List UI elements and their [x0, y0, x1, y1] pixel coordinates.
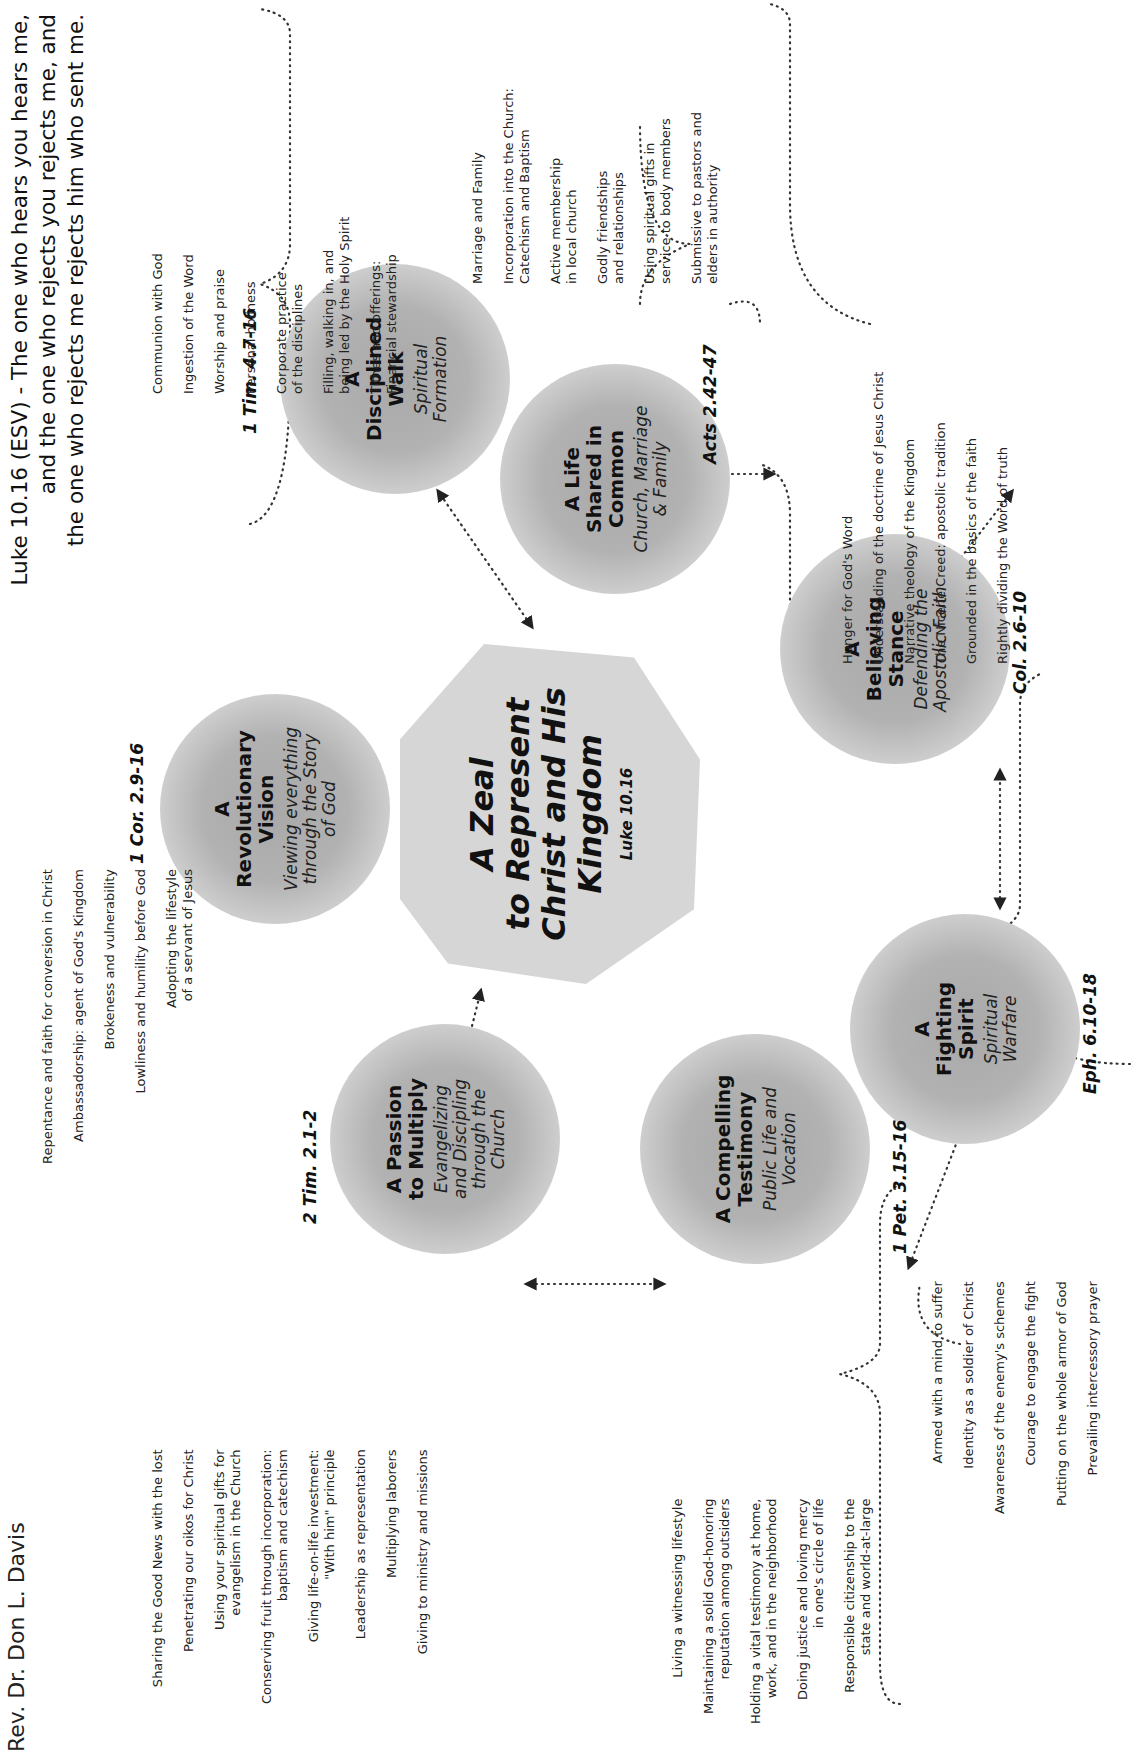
list-item: Repentance and faith for conversion in C… — [40, 869, 56, 1164]
node-reference: 1 Pet. 3.15-16 — [890, 1120, 910, 1254]
node-title: A Compelling Testimony — [712, 1075, 756, 1224]
list-item: Brokeness and vulnerability — [102, 869, 118, 1164]
list-item: Marriage and Family — [470, 88, 486, 284]
list-item: Godly friendships and relationships — [595, 88, 627, 284]
node-passion-to-multiply: A Passion to Multiply Evangelizing and D… — [330, 1024, 560, 1254]
list-item: Responsible citizenship to the state and… — [842, 1499, 874, 1724]
list-item: The Nicene Creed: apostolic tradition — [933, 372, 949, 664]
node-subtitle: Viewing everything through the Story of … — [282, 727, 339, 891]
list-item: Personal holiness — [243, 217, 259, 394]
hub-reference: Luke 10.16 — [618, 768, 636, 861]
list-item: Multiplying laborers — [384, 1449, 400, 1704]
list-item: Grounded in the basics of the faith — [964, 372, 980, 664]
node-subtitle: Spiritual Formation — [412, 336, 450, 423]
list-item: Penetrating our oikos for Christ — [181, 1449, 197, 1704]
list-item: Hunger for God's Word — [840, 372, 856, 664]
item-list-disciplined-walk: Communion with God Ingestion of the Word… — [150, 217, 415, 394]
node-title: A Fighting Spirit — [911, 982, 977, 1076]
item-list-revolutionary-vision: Repentance and faith for conversion in C… — [40, 869, 211, 1164]
hub-title: A Zeal to Represent Christ and His Kingd… — [464, 687, 608, 941]
list-item: Tithes and offerings: Financial stewards… — [368, 217, 400, 394]
list-item: Communion with God — [150, 217, 166, 394]
list-item: Narrative theology of the Kingdom — [902, 372, 918, 664]
list-item: Holding a vital testimony at home, work,… — [748, 1499, 780, 1724]
list-item: Using your spiritual gifts for evangelis… — [212, 1449, 244, 1704]
item-list-life-shared: Marriage and Family Incorporation into t… — [470, 88, 736, 284]
node-reference: Acts 2.42-47 — [700, 344, 720, 464]
list-item: Ingestion of the Word — [181, 217, 197, 394]
node-reference: 1 Cor. 2.9-16 — [127, 743, 147, 864]
list-item: Awareness of the enemy's schemes — [992, 1281, 1008, 1514]
node-reference: 2 Tim. 2.1-2 — [300, 1110, 320, 1224]
list-item: Maintaining a solid God-honoring reputat… — [701, 1499, 733, 1724]
node-title: A Revolutionary Vision — [211, 730, 277, 888]
list-item: Lowliness and humility before God — [133, 869, 149, 1164]
list-item: Armed with a mind to suffer — [930, 1281, 946, 1514]
item-list-fighting-spirit: Armed with a mind to suffer Identity as … — [930, 1281, 1116, 1514]
list-item: Ambassadorship: agent of God's Kingdom — [71, 869, 87, 1164]
list-item: Prevailing intercessory prayer — [1085, 1281, 1101, 1514]
item-list-believing-stance: Hunger for God's Word Understanding of t… — [840, 372, 1026, 664]
list-item: Courage to engage the fight — [1023, 1281, 1039, 1514]
list-item: Living a witnessing lifestyle — [670, 1499, 686, 1724]
list-item: Using spiritual gifts in service to body… — [642, 88, 674, 284]
list-item: Leadership as representation — [353, 1449, 369, 1704]
diagram-canvas: Rev. Dr. Don L. Davis Luke 10.16 (ESV) -… — [0, 0, 1142, 1764]
list-item: Understanding of the doctrine of Jesus C… — [871, 372, 887, 664]
node-subtitle: Church, Marriage & Family — [632, 406, 670, 553]
list-item: Identity as a soldier of Christ — [961, 1281, 977, 1514]
list-item: Conserving fruit through incorporation: … — [259, 1449, 291, 1704]
list-item: Giving to ministry and missions — [415, 1449, 431, 1704]
item-list-compelling-testimony: Living a witnessing lifestyle Maintainin… — [670, 1499, 889, 1724]
item-list-passion-to-multiply: Sharing the Good News with the lost Pene… — [150, 1449, 446, 1704]
list-item: Putting on the whole armor of God — [1054, 1281, 1070, 1514]
list-item: Incorporation into the Church: Catechism… — [501, 88, 533, 284]
node-subtitle: Spiritual Warfare — [982, 994, 1020, 1065]
node-subtitle: Evangelizing and Discipling through the … — [432, 1079, 508, 1199]
list-item: Corporate practice of the disciplines — [274, 217, 306, 394]
list-item: Giving life-on-life investment: "With hi… — [306, 1449, 338, 1704]
node-title: A Passion to Multiply — [383, 1078, 427, 1200]
list-item: Doing justice and loving mercy in one's … — [795, 1499, 827, 1724]
list-item: Filling, walking in, and being led by th… — [321, 217, 353, 394]
node-compelling-testimony: A Compelling Testimony Public Life and V… — [640, 1034, 870, 1264]
node-reference: Eph. 6.10-18 — [1080, 973, 1100, 1094]
node-life-shared-in-common: A Life Shared in Common Church, Marriage… — [500, 364, 730, 594]
list-item: Submissive to pastors and elders in auth… — [689, 88, 721, 284]
central-hub: A Zeal to Represent Christ and His Kingd… — [400, 644, 700, 984]
node-subtitle: Public Life and Vocation — [761, 1087, 799, 1211]
node-fighting-spirit: A Fighting Spirit Spiritual Warfare — [850, 914, 1080, 1144]
list-item: Worship and praise — [212, 217, 228, 394]
list-item: Rightly dividing the Word of truth — [995, 372, 1011, 664]
list-item: Adopting the lifestyle of a servant of J… — [164, 869, 196, 1164]
node-title: A Life Shared in Common — [561, 425, 627, 533]
list-item: Sharing the Good News with the lost — [150, 1449, 166, 1704]
list-item: Active membership in local church — [548, 88, 580, 284]
